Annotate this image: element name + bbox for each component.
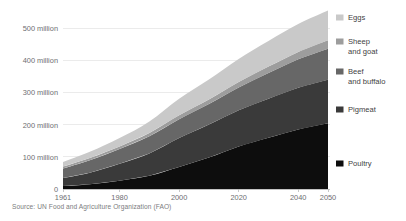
y-tick-label: 300 million xyxy=(23,88,58,97)
chart-legend: EggsSheepand goatBeefand buffaloPigmeatP… xyxy=(336,13,385,168)
x-tick-label: 2050 xyxy=(320,193,336,202)
x-tick-label: 1980 xyxy=(111,193,127,202)
legend-label: Eggs xyxy=(348,13,366,22)
x-tick-label: 1961 xyxy=(55,193,71,202)
legend-label-line2: and goat xyxy=(348,47,378,56)
legend-item-eggs[interactable]: Eggs xyxy=(336,13,366,22)
y-axis-ticks: 0100 million200 million300 million400 mi… xyxy=(23,24,58,193)
legend-item-beef[interactable]: Beefand buffalo xyxy=(336,67,385,86)
legend-label-line2: and buffalo xyxy=(348,77,385,86)
y-tick-label: 200 million xyxy=(23,121,58,130)
x-tick-label: 2020 xyxy=(230,193,246,202)
source-note: Source: UN Food and Agriculture Organiza… xyxy=(12,203,171,210)
legend-label: Sheep xyxy=(348,37,370,46)
stacked-area-chart: 0100 million200 million300 million400 mi… xyxy=(0,0,406,221)
chart-canvas: 0100 million200 million300 million400 mi… xyxy=(0,0,406,221)
y-tick-label: 400 million xyxy=(23,56,58,65)
areas-group xyxy=(63,11,328,189)
legend-swatch xyxy=(336,69,344,75)
legend-item-sheep[interactable]: Sheepand goat xyxy=(336,37,378,56)
y-tick-label: 500 million xyxy=(23,24,58,33)
y-tick-label: 100 million xyxy=(23,153,58,162)
legend-swatch xyxy=(336,107,344,113)
legend-swatch xyxy=(336,39,344,45)
legend-label: Beef xyxy=(348,67,365,76)
legend-swatch xyxy=(336,15,344,21)
legend-label: Pigmeat xyxy=(348,105,377,114)
x-tick-label: 2040 xyxy=(290,193,306,202)
legend-swatch xyxy=(336,161,344,167)
legend-item-pigmeat[interactable]: Pigmeat xyxy=(336,105,377,114)
legend-label: Poultry xyxy=(348,159,372,168)
legend-item-poultry[interactable]: Poultry xyxy=(336,159,372,168)
x-tick-label: 2000 xyxy=(171,193,187,202)
x-axis-ticks: 196119802000202020402050 xyxy=(55,189,336,202)
